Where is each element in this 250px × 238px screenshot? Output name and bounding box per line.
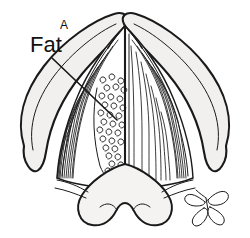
panel-label-a: A bbox=[60, 18, 68, 32]
anatomical-diagram: A Fat bbox=[0, 0, 250, 238]
fat-label: Fat bbox=[30, 32, 62, 57]
figure-container: A Fat bbox=[0, 0, 250, 238]
